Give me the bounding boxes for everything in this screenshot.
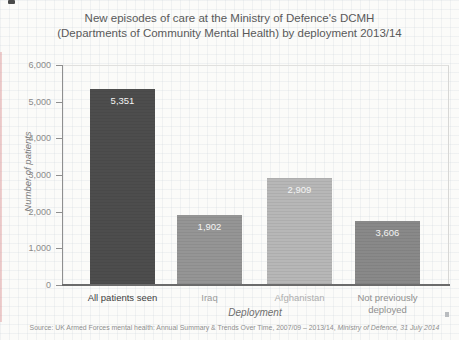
bar-value-label: 1,902 (177, 221, 242, 232)
x-axis-line (62, 284, 450, 286)
scan-edge-artifact (0, 52, 2, 322)
bar-all-patients-seen (90, 89, 155, 284)
x-category-label: Afghanistan (254, 292, 346, 304)
y-tick-label: 5,000 (17, 97, 51, 107)
y-tick-label: 0 (17, 280, 51, 290)
x-axis-title: Deployment (62, 307, 448, 318)
chart-title: New episodes of care at the Ministry of … (0, 11, 459, 40)
chart-title-line1: New episodes of care at the Ministry of … (0, 11, 459, 26)
y-tick-label: 6,000 (17, 60, 51, 70)
source-note-italic: Ministry of Defence, 31 July 2014 (338, 324, 440, 331)
y-tick-label: 1,000 (17, 243, 51, 253)
bar-value-label: 3,606 (355, 227, 420, 238)
y-axis-line (62, 65, 63, 285)
bar-value-label: 5,351 (90, 95, 155, 106)
scan-speck (8, 0, 15, 4)
source-note-regular: Source: UK Armed Forces mental health: A… (30, 324, 338, 331)
y-tick-label: 2,000 (17, 207, 51, 217)
chart-page: { "title": { "line1": "New episodes of c… (0, 0, 459, 340)
bar-value-label: 2,909 (267, 184, 332, 195)
y-tick-label: 4,000 (17, 133, 51, 143)
x-category-label: All patients seen (77, 292, 169, 304)
y-tick-label: 3,000 (17, 170, 51, 180)
x-category-label: Iraq (164, 292, 256, 304)
chart-title-line2: (Departments of Community Mental Health)… (0, 26, 459, 41)
source-note: Source: UK Armed Forces mental health: A… (10, 324, 459, 331)
